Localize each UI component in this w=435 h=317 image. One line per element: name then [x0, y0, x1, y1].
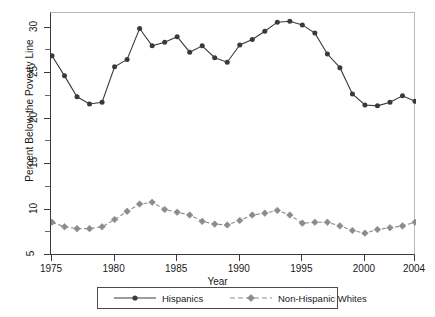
y-tick-label: 30	[28, 21, 39, 32]
data-point	[236, 217, 243, 224]
data-point	[74, 225, 81, 232]
series-line	[52, 21, 415, 106]
data-point	[149, 199, 156, 206]
legend-label: Hispanics	[162, 293, 203, 304]
data-point	[274, 207, 281, 214]
data-point	[324, 219, 331, 226]
y-tick	[44, 209, 50, 210]
x-tick-label: 1985	[156, 263, 196, 274]
data-point	[86, 225, 93, 232]
data-point	[375, 103, 380, 108]
data-point	[261, 210, 268, 217]
x-tick	[239, 255, 240, 261]
data-point	[100, 100, 105, 105]
y-tick	[44, 163, 50, 164]
y-tick-minor	[45, 95, 50, 96]
y-tick-label: 5	[25, 251, 36, 257]
data-point	[187, 50, 192, 55]
data-point	[186, 212, 193, 219]
data-point	[124, 208, 131, 215]
data-point	[337, 65, 342, 70]
data-point	[211, 221, 218, 228]
data-point	[299, 220, 306, 227]
data-point	[387, 224, 394, 231]
data-point	[337, 223, 344, 230]
data-point	[137, 26, 142, 31]
legend-marker-diamond-icon	[228, 288, 274, 308]
data-point	[61, 224, 68, 231]
x-tick-label: 1995	[281, 263, 321, 274]
y-tick	[44, 27, 50, 28]
legend-label: Non-Hispanic Whites	[278, 293, 367, 304]
data-point	[224, 222, 231, 229]
data-point	[262, 29, 267, 34]
data-point	[325, 52, 330, 57]
y-tick-minor	[45, 231, 50, 232]
data-point	[413, 99, 417, 104]
data-point	[161, 206, 168, 213]
data-point	[136, 201, 143, 208]
data-point	[287, 19, 292, 24]
x-tick	[301, 255, 302, 261]
data-point	[287, 212, 294, 219]
y-tick-minor	[45, 186, 50, 187]
data-point	[374, 226, 381, 233]
legend-entry: Hispanics	[112, 288, 203, 308]
x-axis-title: Year	[0, 276, 435, 287]
series-hispanics	[51, 19, 416, 109]
data-point	[51, 219, 55, 226]
data-point	[225, 60, 230, 65]
data-point	[387, 100, 392, 105]
x-tick-label: 2000	[344, 263, 384, 274]
legend-marker-circle-icon	[112, 288, 158, 308]
data-point	[350, 92, 355, 97]
y-tick-minor	[45, 140, 50, 141]
data-point	[400, 93, 405, 98]
data-point	[399, 223, 406, 230]
y-tick-label: 25	[28, 66, 39, 77]
data-point	[249, 212, 256, 219]
x-tick-label: 2004	[394, 263, 434, 274]
data-point	[51, 53, 55, 58]
data-point	[312, 31, 317, 36]
plot-area	[50, 12, 415, 255]
data-point	[212, 55, 217, 60]
x-tick-label: 1990	[219, 263, 259, 274]
legend-entry: Non-Hispanic Whites	[228, 288, 367, 308]
data-point	[174, 209, 181, 216]
data-point	[111, 216, 118, 223]
data-point	[99, 224, 106, 231]
data-point	[250, 37, 255, 42]
data-point	[200, 43, 205, 48]
series-non-hispanic-whites	[51, 199, 416, 237]
x-tick	[176, 255, 177, 261]
data-point	[275, 20, 280, 25]
y-tick-label: 10	[28, 202, 39, 213]
chart-figure: Percent Below the Poverty Line 510152025…	[0, 0, 435, 317]
y-tick	[44, 72, 50, 73]
series-line	[52, 202, 415, 233]
y-tick	[44, 118, 50, 119]
x-tick	[114, 255, 115, 261]
data-point	[199, 218, 206, 225]
y-tick-label: 15	[28, 157, 39, 168]
data-point	[362, 230, 369, 237]
data-point	[300, 22, 305, 27]
data-point	[75, 94, 80, 99]
data-point	[62, 73, 67, 78]
x-tick	[51, 255, 52, 261]
data-point	[87, 102, 92, 107]
x-tick	[414, 255, 415, 261]
y-tick	[44, 254, 50, 255]
data-point	[112, 64, 117, 69]
x-tick-label: 1980	[94, 263, 134, 274]
chart-canvas	[51, 13, 416, 256]
x-tick-label: 1975	[31, 263, 71, 274]
data-point	[125, 57, 130, 62]
x-tick	[364, 255, 365, 261]
data-point	[412, 219, 416, 226]
data-point	[349, 227, 356, 234]
data-point	[362, 102, 367, 107]
data-point	[237, 42, 242, 47]
chart-legend: HispanicsNon-Hispanic Whites	[97, 287, 338, 309]
